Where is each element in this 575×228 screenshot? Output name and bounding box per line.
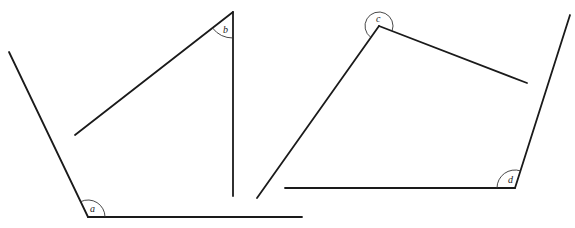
angle-c-ray-2 bbox=[379, 26, 527, 83]
angle-c: c bbox=[257, 12, 527, 198]
angle-a: a bbox=[9, 52, 302, 217]
angle-d-ray-2 bbox=[515, 15, 570, 188]
angle-c-ray-1 bbox=[257, 26, 379, 198]
angles-diagram: abcd bbox=[0, 0, 575, 228]
angle-b-ray-1 bbox=[75, 12, 233, 135]
angle-b: b bbox=[75, 12, 233, 196]
angle-b-label: b bbox=[223, 24, 228, 35]
angle-d: d bbox=[285, 15, 570, 188]
angle-c-label: c bbox=[376, 13, 381, 24]
angle-a-label: a bbox=[90, 203, 95, 214]
angle-d-label: d bbox=[508, 174, 514, 185]
